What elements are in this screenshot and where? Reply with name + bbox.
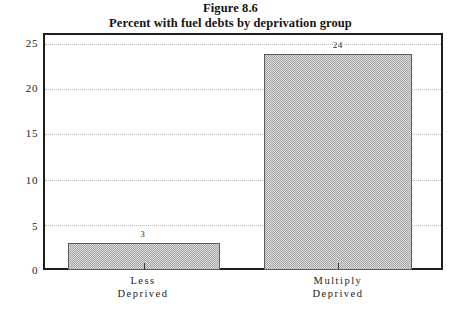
bar-value-less-deprived: 3 (113, 230, 173, 239)
y-axis-tick-labels: 25 20 15 10 5 0 (0, 0, 38, 314)
x-category-label-line1: Multiply (314, 275, 363, 286)
x-category-label-line1: Less (130, 275, 155, 286)
y-tick-label-5: 5 (4, 221, 38, 232)
y-tick-label-20: 20 (4, 83, 38, 94)
x-tick-less-deprived (144, 263, 145, 270)
x-category-label-multiply-deprived: Multiply Deprived (268, 274, 408, 300)
x-category-label-less-deprived: Less Deprived (73, 274, 213, 300)
y-tick-label-15: 15 (4, 128, 38, 139)
bar-multiply-deprived[interactable] (264, 54, 412, 270)
y-tick-label-0: 0 (4, 265, 38, 276)
gridline-25 (45, 44, 441, 45)
x-category-label-line2: Deprived (268, 287, 408, 300)
plot-area (43, 33, 443, 270)
x-category-label-line2: Deprived (73, 287, 213, 300)
bar-chart: 25 20 15 10 5 0 3 24 Less (0, 0, 461, 314)
y-tick-label-25: 25 (4, 38, 38, 49)
x-tick-multiply-deprived (338, 263, 339, 270)
bar-value-multiply-deprived: 24 (308, 41, 368, 50)
y-tick-label-10: 10 (4, 175, 38, 186)
